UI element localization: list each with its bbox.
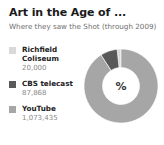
legend-item-youtube[interactable]: YouTube 1,073,435	[9, 105, 81, 123]
chart-subtitle: Where they saw the Shot (through 2009)	[9, 22, 159, 32]
legend-item-label: CBS telecast	[22, 80, 80, 89]
legend-swatch-icon	[9, 106, 16, 113]
donut-chart-svg	[82, 46, 160, 126]
chart-body: Richfield Coliseum 20,000 CBS telecast 8…	[0, 44, 164, 145]
chart-legend: Richfield Coliseum 20,000 CBS telecast 8…	[9, 46, 81, 130]
legend-item-richfield-coliseum[interactable]: Richfield Coliseum 20,000	[9, 46, 81, 73]
chart-screenshot: Art in the Age of ... Where they saw the…	[0, 0, 164, 145]
donut-slice-group	[84, 49, 158, 123]
legend-item-value: 87,868	[22, 89, 81, 98]
donut-slice[interactable]	[84, 49, 158, 123]
legend-swatch-icon	[9, 81, 16, 88]
legend-item-label: Richfield Coliseum	[22, 46, 80, 63]
chart-header: Art in the Age of ... Where they saw the…	[9, 6, 159, 32]
legend-swatch-icon	[9, 47, 16, 54]
legend-item-value: 20,000	[22, 64, 81, 73]
page-title: Art in the Age of ...	[9, 6, 159, 19]
legend-item-value: 1,073,435	[22, 114, 81, 123]
donut-chart: %	[82, 46, 160, 126]
legend-item-cbs-telecast[interactable]: CBS telecast 87,868	[9, 80, 81, 98]
legend-item-label: YouTube	[22, 105, 80, 114]
